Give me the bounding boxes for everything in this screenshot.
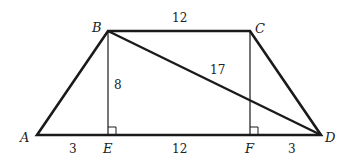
label-d: D <box>324 130 336 145</box>
trapezoid-outline <box>37 31 321 135</box>
diagonal-bd <box>108 31 321 135</box>
label-a: A <box>19 130 29 145</box>
measure-ae: 3 <box>69 142 77 156</box>
measure-be: 8 <box>114 78 122 92</box>
measure-bd: 17 <box>210 63 225 77</box>
label-c: C <box>255 21 265 36</box>
measure-ef: 12 <box>172 142 187 156</box>
trapezoid-diagram: A B C D E F 12 8 17 3 12 3 <box>0 0 354 158</box>
measure-bc: 12 <box>172 11 187 25</box>
label-b: B <box>91 20 102 35</box>
measure-fd: 3 <box>288 142 296 156</box>
label-f: F <box>244 141 255 156</box>
label-e: E <box>102 141 113 156</box>
